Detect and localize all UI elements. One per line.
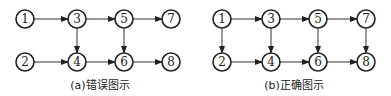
node-3: 3 — [262, 10, 280, 28]
node-7: 7 — [357, 10, 375, 28]
node-1: 1 — [213, 10, 231, 28]
svg-text:5: 5 — [120, 12, 128, 26]
caption-wrong-diagram: (a)错误图示 — [40, 76, 160, 92]
svg-text:4: 4 — [73, 55, 81, 69]
node-7: 7 — [162, 10, 180, 28]
node-3: 3 — [68, 10, 86, 28]
node-6: 6 — [115, 53, 133, 71]
svg-text:2: 2 — [218, 55, 226, 69]
svg-text:7: 7 — [167, 12, 175, 26]
svg-text:7: 7 — [362, 12, 370, 26]
svg-text:4: 4 — [267, 55, 275, 69]
svg-text:2: 2 — [21, 55, 29, 69]
svg-text:3: 3 — [73, 12, 81, 26]
svg-text:5: 5 — [314, 12, 322, 26]
svg-text:6: 6 — [314, 55, 322, 69]
node-4: 4 — [262, 53, 280, 71]
node-2: 2 — [16, 53, 34, 71]
svg-text:8: 8 — [362, 55, 370, 69]
node-6: 6 — [309, 53, 327, 71]
svg-text:6: 6 — [120, 55, 128, 69]
svg-text:1: 1 — [218, 12, 226, 26]
node-2: 2 — [213, 53, 231, 71]
node-8: 8 — [357, 53, 375, 71]
svg-text:1: 1 — [21, 12, 29, 26]
svg-text:3: 3 — [267, 12, 275, 26]
node-5: 5 — [115, 10, 133, 28]
caption-correct-diagram: (b)正确图示 — [234, 76, 354, 92]
node-1: 1 — [16, 10, 34, 28]
node-5: 5 — [309, 10, 327, 28]
node-8: 8 — [162, 53, 180, 71]
svg-text:8: 8 — [167, 55, 175, 69]
node-4: 4 — [68, 53, 86, 71]
